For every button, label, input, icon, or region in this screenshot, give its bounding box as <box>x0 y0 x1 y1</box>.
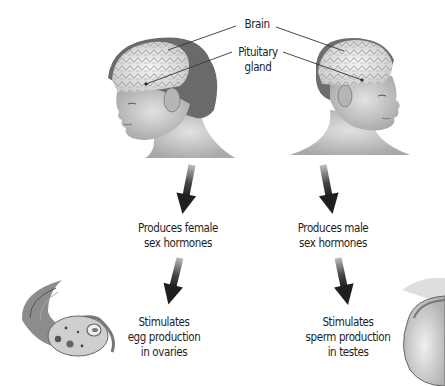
male-step1-label: Produces male sex hormones <box>298 221 369 251</box>
brain-leader-right <box>276 27 344 51</box>
girl-head <box>108 37 235 158</box>
female-step1-label: Produces female sex hormones <box>138 221 218 251</box>
testis-illustration <box>402 278 445 386</box>
male-step2-label: Stimulates sperm production in testes <box>306 315 391 360</box>
male-step1-line-2: sex hormones <box>298 236 369 251</box>
diagram-stage: Brain Pituitary gland Produces female se… <box>0 0 445 386</box>
male-step2-line-3: in testes <box>306 345 391 360</box>
arrow-male-1 <box>313 163 342 216</box>
pituitary-label-line-2: gland <box>238 60 278 75</box>
female-step2-label: Stimulates egg production in ovaries <box>128 315 201 360</box>
pituitary-label-line-1: Pituitary <box>238 45 278 60</box>
brain-leader-left <box>168 26 236 50</box>
pituitary-dot-right <box>360 78 363 81</box>
pituitary-label: Pituitary gland <box>238 45 278 75</box>
female-step1-line-1: Produces female <box>138 221 218 236</box>
boy-head <box>290 38 410 155</box>
arrow-male-2 <box>328 256 358 307</box>
brain-label-text: Brain <box>244 17 269 32</box>
female-step1-line-2: sex hormones <box>138 236 218 251</box>
arrow-female-2 <box>159 256 190 307</box>
female-step2-line-3: in ovaries <box>128 345 201 360</box>
ovary-illustration <box>22 280 114 356</box>
pituitary-dot-left <box>144 82 147 85</box>
arrow-female-1 <box>173 163 202 216</box>
male-step2-line-2: sperm production <box>306 330 391 345</box>
girl-ear <box>164 88 180 112</box>
male-step2-line-1: Stimulates <box>306 315 391 330</box>
boy-ear <box>338 85 352 107</box>
female-step2-line-1: Stimulates <box>128 315 201 330</box>
female-step2-line-2: egg production <box>128 330 201 345</box>
brain-label: Brain <box>244 17 269 32</box>
testis <box>403 296 445 386</box>
male-step1-line-1: Produces male <box>298 221 369 236</box>
